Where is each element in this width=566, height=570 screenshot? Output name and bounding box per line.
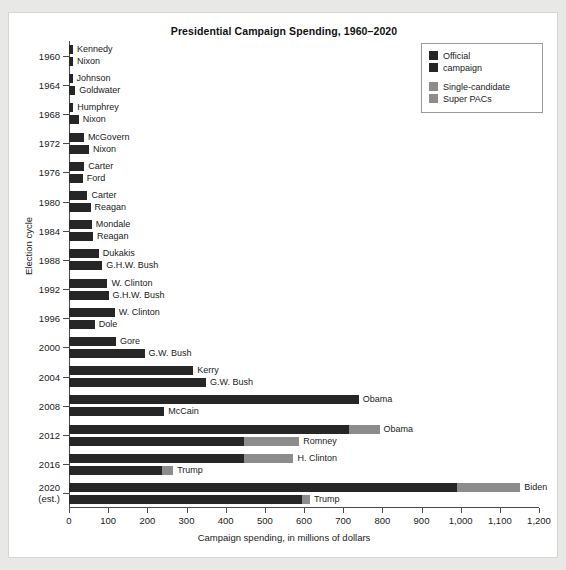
- bar-segment-super-pac: [302, 495, 310, 504]
- legend: OfficialcampaignSingle-candidateSuper PA…: [421, 43, 543, 113]
- y-axis-tick-label: 2020(est.): [38, 482, 60, 504]
- y-axis-title: Election cycle: [23, 217, 34, 275]
- bar: [69, 249, 99, 258]
- y-axis-tick-label-year: 1992: [39, 284, 60, 295]
- bar: [69, 395, 359, 404]
- bar: [69, 378, 206, 387]
- x-axis-tick: [382, 508, 383, 513]
- bar-segment-super-pac: [244, 454, 294, 463]
- bar-segment-official-campaign: [69, 174, 83, 183]
- bar-label: Reagan: [97, 231, 129, 241]
- y-axis-tick-label-year: 1980: [39, 196, 60, 207]
- bar: [69, 291, 109, 300]
- legend-entry: Officialcampaign: [429, 50, 535, 74]
- bar-label: Nixon: [93, 144, 116, 154]
- y-axis-tick-label-year: 1968: [39, 108, 60, 119]
- bar-segment-official-campaign: [69, 45, 73, 54]
- bar: [69, 232, 93, 241]
- y-axis-tick-label-year: 2004: [39, 371, 60, 382]
- y-axis-tick-label: 1964: [39, 79, 60, 90]
- x-axis-tick-label: 1,100: [488, 515, 512, 526]
- x-axis-tick: [500, 508, 501, 513]
- y-axis-tick-label: 2016: [39, 459, 60, 470]
- y-axis-tick-label: 1984: [39, 225, 60, 236]
- bar: [69, 320, 95, 329]
- legend-label-line: Super PACs: [443, 93, 510, 105]
- x-axis-tick-label: 100: [100, 515, 116, 526]
- y-axis-tick-label: 1980: [39, 196, 60, 207]
- bar-segment-official-campaign: [69, 103, 73, 112]
- y-axis-tick-label-year: 2020: [39, 482, 60, 493]
- bar-segment-official-campaign: [69, 366, 193, 375]
- page-title: Presidential Campaign Spending, 1960–202…: [9, 25, 559, 37]
- bar: [69, 407, 164, 416]
- y-axis-tick-label-year: 2008: [39, 400, 60, 411]
- bar-label: McGovern: [88, 132, 130, 142]
- bar: [69, 86, 75, 95]
- bar: [69, 162, 84, 171]
- x-axis-title: Campaign spending, in millions of dollar…: [9, 532, 559, 543]
- x-axis-tick: [265, 508, 266, 513]
- bar-segment-official-campaign: [69, 378, 206, 387]
- y-axis-tick-label-year: 1964: [39, 79, 60, 90]
- legend-swatch: [429, 63, 438, 72]
- bar-segment-official-campaign: [69, 162, 84, 171]
- y-axis-tick-label-year: 1984: [39, 225, 60, 236]
- x-axis-tick-label: 300: [179, 515, 195, 526]
- y-axis-tick-label: 1976: [39, 167, 60, 178]
- x-axis-tick-label: 200: [139, 515, 155, 526]
- bar-label: Romney: [303, 436, 337, 446]
- x-axis-tick: [343, 508, 344, 513]
- y-axis-tick-label: 1988: [39, 254, 60, 265]
- bar: [69, 261, 102, 270]
- bar-segment-official-campaign: [69, 308, 115, 317]
- bar-segment-official-campaign: [69, 57, 73, 66]
- bar-segment-official-campaign: [69, 454, 244, 463]
- y-axis-tick-label-year: 2012: [39, 430, 60, 441]
- bar-segment-official-campaign: [69, 133, 84, 142]
- x-axis-tick: [187, 508, 188, 513]
- legend-label-line: campaign: [443, 62, 482, 74]
- bar: [69, 174, 83, 183]
- bar-segment-super-pac: [162, 466, 173, 475]
- bar: [69, 103, 73, 112]
- y-axis-tick-label: 1996: [39, 313, 60, 324]
- legend-swatch-group: [429, 50, 438, 72]
- y-axis-tick-label-note: (est.): [38, 493, 60, 504]
- bar: [69, 483, 520, 492]
- bar-label: Johnson: [77, 73, 111, 83]
- bar-segment-super-pac: [244, 437, 300, 446]
- bar: [69, 45, 73, 54]
- bar: [69, 437, 299, 446]
- bar-segment-official-campaign: [69, 249, 99, 258]
- bar-label: Obama: [363, 394, 393, 404]
- bar-label: W. Clinton: [119, 307, 160, 317]
- bar-segment-super-pac: [349, 425, 380, 434]
- x-axis-tick-label: 1,000: [449, 515, 473, 526]
- legend-swatch: [429, 51, 438, 60]
- legend-label: Single-candidateSuper PACs: [443, 81, 510, 105]
- chart-figure: Presidential Campaign Spending, 1960–202…: [8, 12, 558, 558]
- x-axis-tick: [304, 508, 305, 513]
- bar-label: Nixon: [83, 114, 106, 124]
- legend-label: Officialcampaign: [443, 50, 482, 74]
- bar-label: Carter: [91, 190, 116, 200]
- x-axis-tick-label: 1,200: [527, 515, 551, 526]
- bar-segment-official-campaign: [69, 320, 95, 329]
- y-axis-tick-label: 2008: [39, 400, 60, 411]
- bar: [69, 133, 84, 142]
- y-axis-tick-label: 1960: [39, 50, 60, 61]
- bar: [69, 454, 293, 463]
- bar: [69, 220, 92, 229]
- y-axis-tick-label: 1968: [39, 108, 60, 119]
- bar-label: Nixon: [77, 56, 100, 66]
- bar: [69, 145, 89, 154]
- legend-swatch-group: [429, 81, 438, 103]
- bar-segment-official-campaign: [69, 220, 92, 229]
- y-axis-tick-label: 2012: [39, 430, 60, 441]
- bar-segment-official-campaign: [69, 279, 107, 288]
- bar: [69, 425, 380, 434]
- bar: [69, 466, 173, 475]
- bar-label: Ford: [87, 173, 106, 183]
- bar-segment-super-pac: [457, 483, 520, 492]
